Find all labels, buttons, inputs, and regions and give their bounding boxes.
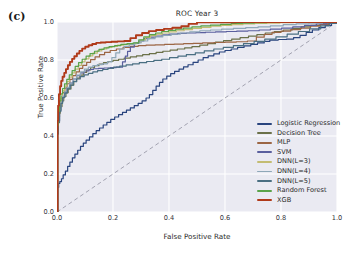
legend-item-label: MLP [277,138,290,147]
legend-item-label: XGB [277,196,291,205]
legend-item[interactable]: SVM [257,148,340,158]
legend-item[interactable]: DNN(L=3) [257,157,340,167]
legend-item[interactable]: Logistic Regression [257,119,340,129]
y-tick-label: 0.4 [28,132,54,140]
x-axis-ticks: 0.00.20.40.60.81.0 [42,214,352,226]
legend-item-label: Logistic Regression [277,119,340,128]
x-tick-label: 0.2 [98,214,128,222]
legend-color-swatch [257,161,272,163]
chart-title: ROC Year 3 [57,9,337,18]
legend-color-swatch [257,171,272,173]
legend-item[interactable]: Random Forest [257,186,340,196]
legend-item-label: Random Forest [277,186,327,195]
x-tick-label: 0.8 [266,214,296,222]
x-tick-label: 0.6 [210,214,240,222]
roc-figure: (c) ROC Year 3 True Positive Rate False … [0,0,355,254]
legend-color-swatch [257,190,272,192]
legend-item[interactable]: Decision Tree [257,129,340,139]
legend-item[interactable]: MLP [257,138,340,148]
y-tick-label: 0.8 [28,56,54,64]
legend-color-swatch [257,180,272,182]
legend-item-label: SVM [277,148,291,157]
y-tick-label: 0.6 [28,94,54,102]
x-tick-label: 1.0 [322,214,352,222]
x-axis-label: False Positive Rate [57,232,337,241]
legend-item-label: DNN(L=4) [277,167,310,176]
legend-item[interactable]: DNN(L=4) [257,167,340,177]
panel-label: (c) [8,10,26,23]
x-tick-label: 0.4 [154,214,184,222]
legend-item[interactable]: DNN(L=5) [257,176,340,186]
legend-item-label: DNN(L=3) [277,157,310,166]
legend-color-swatch [257,132,272,134]
legend-item-label: DNN(L=5) [277,177,310,186]
y-tick-label: 0.2 [28,170,54,178]
y-axis-ticks: 0.00.20.40.60.81.0 [26,22,54,212]
x-tick-label: 0.0 [42,214,72,222]
legend-item-label: Decision Tree [277,129,321,138]
legend: Logistic RegressionDecision TreeMLPSVMDN… [257,119,340,205]
y-tick-label: 1.0 [28,18,54,26]
legend-color-swatch [257,151,272,153]
legend-color-swatch [257,142,272,144]
legend-item[interactable]: XGB [257,195,340,205]
legend-color-swatch [257,123,272,125]
legend-color-swatch [257,199,272,201]
